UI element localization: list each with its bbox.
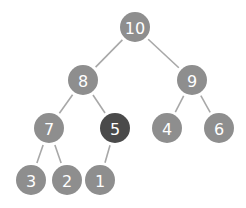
node-label: 7 [44,120,54,139]
edge-n5-n1 [105,145,110,162]
node-label: 5 [110,120,120,139]
node-label: 8 [78,72,88,91]
node-label: 4 [162,120,172,139]
node-label: 1 [95,172,105,191]
tree-node-10: 10 [120,12,150,42]
node-label: 6 [214,120,224,139]
edge-n9-n4 [175,96,183,112]
tree-node-8: 8 [68,65,98,95]
tree-node-2: 2 [52,165,82,195]
node-label: 9 [187,72,197,91]
node-label: 2 [62,172,72,191]
edge-n7-n3 [37,145,43,163]
edges [37,39,210,163]
nodes: 10897546321 [16,12,234,195]
edge-n7-n2 [55,145,61,163]
edge-n9-n6 [201,96,210,113]
edge-n8-n5 [93,95,105,113]
tree-node-6: 6 [204,113,234,143]
edge-n10-n8 [96,40,123,67]
tree-node-3: 3 [16,165,46,195]
tree-node-7: 7 [34,113,64,143]
node-label: 3 [26,172,36,191]
tree-node-5: 5 [100,113,130,143]
edge-n10-n9 [148,39,179,67]
edge-n8-n7 [59,95,72,114]
node-label: 10 [125,19,145,38]
tree-node-1: 1 [85,165,115,195]
tree-node-4: 4 [152,113,182,143]
tree-node-9: 9 [177,65,207,95]
tree-diagram: 10897546321 [0,0,246,208]
